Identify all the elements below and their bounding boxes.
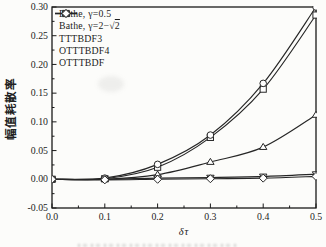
x-tick-label: 0.2 <box>151 211 163 222</box>
series-line-2 <box>52 115 316 180</box>
legend-label: TTTBDF3 <box>59 34 102 44</box>
y-tick-label: 0.20 <box>31 59 48 70</box>
legend-line-sample <box>55 8 77 19</box>
y-tick-label: 0.10 <box>31 116 48 127</box>
y-tick-label: 0.25 <box>31 30 48 41</box>
circle-marker-icon <box>207 132 214 139</box>
chart-canvas: 0.00.10.20.30.40.5-0.050.000.050.100.150… <box>0 0 326 247</box>
x-tick-label: 0.4 <box>257 211 269 222</box>
y-tick-label: 0.00 <box>31 173 48 184</box>
legend-label: OTTTBDF4 <box>59 46 110 56</box>
legend-label: Bathe, γ=2−√2 <box>59 21 120 31</box>
circle-marker-icon <box>154 161 161 168</box>
legend: Bathe, γ=0.5Bathe, γ=2−√2TTTBDF3OTTTBDF4… <box>55 8 120 69</box>
series-markers-2 <box>48 111 319 181</box>
legend-item-1: Bathe, γ=2−√2 <box>55 20 120 32</box>
x-tick-label: 0.5 <box>310 211 322 222</box>
x-axis-label: δτ <box>179 226 190 237</box>
x-tick-label: 0.1 <box>99 211 111 222</box>
y-tick-label: 0.30 <box>31 1 48 12</box>
y-axis-label: 幅值耗散率 <box>2 78 18 141</box>
scan-smudge <box>98 76 124 92</box>
square-marker-icon <box>313 12 319 18</box>
legend-item-2: TTTBDF3 <box>55 32 120 44</box>
diamond-marker-icon <box>62 10 70 18</box>
y-tick-label: 0.05 <box>31 145 48 156</box>
figure: 0.00.10.20.30.40.5-0.050.000.050.100.150… <box>0 0 326 247</box>
circle-marker-icon <box>313 4 320 11</box>
legend-item-4: OTTTBDF <box>55 57 120 69</box>
circle-marker-icon <box>260 80 267 87</box>
y-tick-label: -0.05 <box>28 202 49 213</box>
triangle-up-marker-icon <box>312 111 319 117</box>
legend-label: OTTTBDF <box>59 58 105 68</box>
legend-item-3: OTTTBDF4 <box>55 45 120 57</box>
x-tick-label: 0.3 <box>204 211 216 222</box>
y-tick-label: 0.15 <box>31 87 48 98</box>
